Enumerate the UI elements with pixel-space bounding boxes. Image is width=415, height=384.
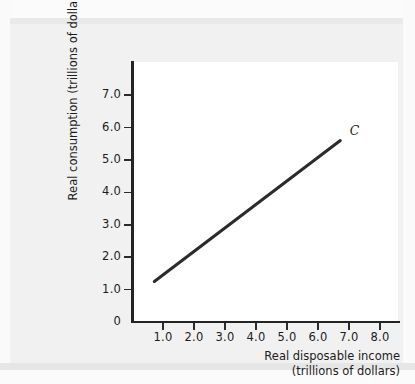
y-tick-mark [124, 94, 131, 96]
y-tick-mark [124, 256, 131, 258]
x-tick-mark [162, 323, 164, 330]
figure-container: 01.02.03.04.05.06.07.0 1.02.03.04.05.06.… [0, 0, 415, 384]
y-tick-label: 5.0 [102, 152, 121, 166]
y-axis-title: Real consumption (trillions of dollars) [66, 0, 80, 208]
x-axis-title-line2: (trillions of dollars) [196, 364, 400, 379]
x-tick-label: 4.0 [239, 330, 273, 344]
y-tick-label: 4.0 [102, 184, 121, 198]
page-edge-left [0, 0, 10, 384]
page-edge-top [0, 0, 415, 18]
x-tick-mark [286, 323, 288, 330]
x-tick-label: 3.0 [208, 330, 242, 344]
x-tick-label: 6.0 [301, 330, 335, 344]
y-tick-label: 7.0 [102, 87, 121, 101]
x-tick-label: 2.0 [177, 330, 211, 344]
consumption-line-series [132, 62, 398, 322]
y-tick-mark [124, 127, 131, 129]
y-tick-label: 0 [113, 314, 121, 328]
x-tick-label: 5.0 [270, 330, 304, 344]
y-tick-label: 3.0 [102, 217, 121, 231]
x-tick-mark [317, 323, 319, 330]
y-tick-mark [124, 289, 131, 291]
x-tick-mark [379, 323, 381, 330]
y-tick-mark [124, 224, 131, 226]
page-edge-right [403, 0, 415, 384]
y-tick-mark [124, 159, 131, 161]
y-tick-mark [124, 192, 131, 194]
x-tick-mark [348, 323, 350, 330]
x-tick-mark [193, 323, 195, 330]
curve-label-c: C [350, 123, 360, 138]
x-tick-mark [224, 323, 226, 330]
x-tick-label: 7.0 [332, 330, 366, 344]
chart-canvas: 01.02.03.04.05.06.07.0 1.02.03.04.05.06.… [10, 24, 403, 363]
x-tick-label: 1.0 [146, 330, 180, 344]
x-axis-title-line1: Real disposable income [196, 349, 400, 364]
y-tick-label: 1.0 [102, 282, 121, 296]
x-tick-mark [255, 323, 257, 330]
consumption-line [154, 141, 340, 282]
x-axis-title: Real disposable income (trillions of dol… [196, 349, 400, 379]
y-tick-label: 2.0 [102, 249, 121, 263]
x-tick-label: 8.0 [363, 330, 397, 344]
y-tick-label: 6.0 [102, 120, 121, 134]
